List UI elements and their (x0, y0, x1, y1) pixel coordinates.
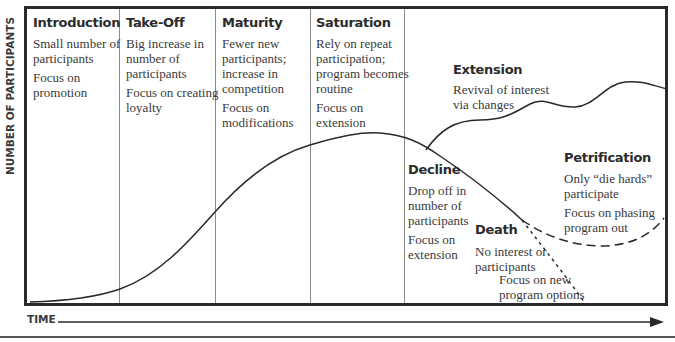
y-axis-label: NUMBER OF PARTICIPANTS (4, 17, 16, 175)
branch-description-line: participate (564, 186, 619, 201)
branch-description-line: via changes (453, 97, 514, 112)
stage-description-line: program becomes (316, 66, 409, 81)
stage-focus-line: Focus on creating (126, 85, 218, 100)
stage-title-take-off: Take-Off (126, 15, 184, 30)
bottom-rule (0, 336, 675, 338)
stage-title-introduction: Introduction (33, 15, 120, 30)
branch-text-extension: Revival of interestvia changes (453, 82, 549, 116)
y-axis-label-wrapper: NUMBER OF PARTICIPANTS (4, 159, 16, 175)
stage-focus-line: modifications (222, 115, 294, 130)
program-life-cycle-diagram: Introduction Small number ofparticipants… (0, 0, 675, 342)
stage-focus-line: Focus on (408, 232, 455, 247)
stage-text-take-off: Big increase innumber ofparticipants Foc… (126, 36, 218, 119)
stage-description-line: Big increase in (126, 36, 204, 51)
stage-description-line: participants; (222, 51, 286, 66)
stage-title-saturation: Saturation (316, 15, 391, 30)
stage-description-line: participants (33, 51, 94, 66)
branch-title-petrification: Petrification (564, 150, 651, 165)
stage-description-line: number of (408, 198, 462, 213)
stage-description-line: Small number of (33, 36, 120, 51)
stage-text-saturation: Rely on repeatparticipation;program beco… (316, 36, 409, 134)
stage-description-line: participants (408, 213, 469, 228)
stage-description-line: number of (126, 51, 180, 66)
branch-description-line: No interest or (475, 244, 546, 259)
stage-description-line: Fewer new (222, 36, 279, 51)
stage-text-maturity: Fewer newparticipants;increase incompeti… (222, 36, 294, 134)
branch-focus-line: program out (564, 220, 628, 235)
branch-focus-death: Focus on newprogram options (499, 272, 585, 306)
x-axis-label: TIME (27, 313, 56, 325)
stage-description-line: participants (126, 66, 187, 81)
stage-focus-line: promotion (33, 85, 87, 100)
stage-focus-line: Focus on (222, 100, 269, 115)
branch-focus-line: Focus on phasing (564, 205, 655, 220)
branch-text-petrification: Only “die hards”participate Focus on pha… (564, 171, 655, 239)
stage-title-maturity: Maturity (222, 15, 282, 30)
stage-title-decline: Decline (408, 162, 460, 177)
stage-description-line: Drop off in (408, 183, 466, 198)
stage-focus-line: extension (316, 115, 366, 130)
stage-description-line: increase in (222, 66, 278, 81)
stage-focus-line: Focus on (316, 100, 363, 115)
stage-description-line: Rely on repeat (316, 36, 392, 51)
stage-text-introduction: Small number ofparticipants Focus onprom… (33, 36, 120, 104)
branch-focus-line: program options (499, 287, 585, 302)
time-arrow-head-icon (650, 317, 664, 327)
stage-focus-line: Focus on (33, 70, 80, 85)
branch-title-death: Death (475, 222, 517, 237)
branch-description-line: Revival of interest (453, 82, 549, 97)
stage-focus-line: extension (408, 247, 458, 262)
stage-text-decline: Drop off innumber ofparticipants Focus o… (408, 183, 469, 266)
branch-description-line: Only “die hards” (564, 171, 652, 186)
stage-description-line: participation; (316, 51, 385, 66)
stage-description-line: routine (316, 81, 353, 96)
branch-focus-line: Focus on new (499, 272, 571, 287)
branch-title-extension: Extension (453, 62, 522, 77)
stage-description-line: competition (222, 81, 284, 96)
stage-focus-line: loyalty (126, 100, 162, 115)
